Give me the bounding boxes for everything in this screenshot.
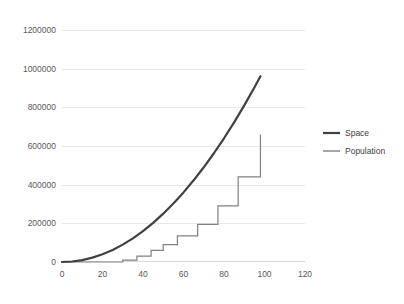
x-tick-label: 0 xyxy=(42,270,82,279)
x-tick-label: 40 xyxy=(123,270,163,279)
legend-label-space: Space xyxy=(345,129,369,138)
x-tick-label: 20 xyxy=(83,270,123,279)
chart-container: 1200000 1000000 800000 600000 400000 200… xyxy=(0,0,404,304)
legend-swatch-space xyxy=(323,131,340,135)
chart-legend: Space Population xyxy=(323,129,385,155)
y-tick-label: 400000 xyxy=(28,181,56,190)
x-tick-label: 120 xyxy=(285,270,325,279)
legend-item-population[interactable]: Population xyxy=(323,147,385,156)
y-tick-label: 200000 xyxy=(28,219,56,228)
legend-swatch-population xyxy=(323,149,340,153)
y-tick-label: 1000000 xyxy=(23,65,56,74)
y-tick-label: 600000 xyxy=(28,142,56,151)
series-line-space xyxy=(62,76,260,262)
series-plot xyxy=(62,30,305,262)
y-tick-label: 1200000 xyxy=(23,26,56,35)
x-tick-label: 60 xyxy=(164,270,204,279)
legend-item-space[interactable]: Space xyxy=(323,129,385,138)
y-tick-label: 0 xyxy=(51,258,56,267)
x-tick-label: 80 xyxy=(204,270,244,279)
legend-label-population: Population xyxy=(345,147,385,156)
series-line-population xyxy=(62,134,260,262)
x-tick-label: 100 xyxy=(245,270,285,279)
plot-area xyxy=(62,30,305,262)
y-tick-label: 800000 xyxy=(28,103,56,112)
